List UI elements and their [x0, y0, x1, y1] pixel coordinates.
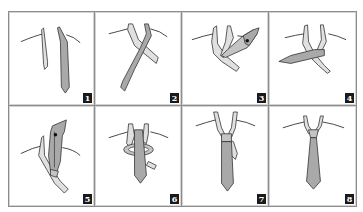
step-number-badge: 4: [345, 93, 354, 103]
step-number-badge: 7: [257, 194, 266, 204]
step-panel-3: 3: [181, 11, 269, 106]
step-number-badge: 3: [257, 93, 266, 103]
step-1-illustration: [9, 12, 94, 105]
step-number-badge: 8: [345, 194, 354, 204]
step-number-badge: 6: [170, 194, 179, 204]
step-panel-7: 7: [181, 105, 269, 207]
step-panel-4: 4: [268, 11, 357, 106]
step-panel-1: 1: [8, 11, 95, 106]
step-8-illustration: [269, 106, 356, 206]
step-3-illustration: [182, 12, 268, 105]
step-2-illustration: [95, 12, 181, 105]
step-number-badge: 2: [170, 93, 179, 103]
step-6-illustration: [95, 106, 181, 206]
step-4-illustration: [269, 12, 356, 105]
step-7-illustration: [182, 106, 268, 206]
step-number-badge: 1: [83, 93, 92, 103]
step-panel-8: 8: [268, 105, 357, 207]
step-panel-6: 6: [94, 105, 182, 207]
step-5-illustration: [9, 106, 94, 206]
step-number-badge: 5: [83, 194, 92, 204]
step-panel-2: 2: [94, 11, 182, 106]
step-panel-5: 5: [8, 105, 95, 207]
tie-steps-grid: 1 2 3 4: [8, 11, 356, 206]
